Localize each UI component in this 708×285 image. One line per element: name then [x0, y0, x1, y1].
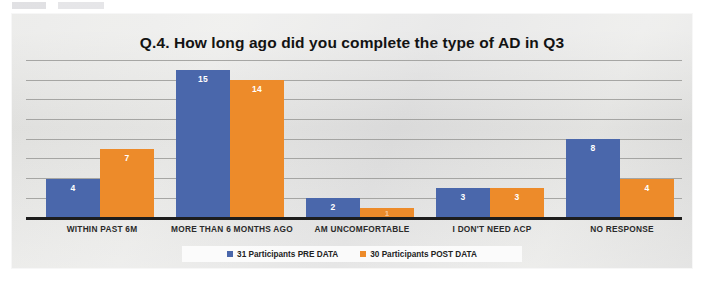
x-axis-tick-label: AM UNCOMFORTABLE: [304, 224, 420, 234]
legend-swatch-icon: [227, 251, 233, 257]
bar-post[interactable]: 14: [230, 80, 284, 218]
bar-post[interactable]: 7: [100, 149, 154, 218]
bar-value: 4: [620, 183, 674, 193]
legend-item-pre[interactable]: 31 Participants PRE DATA: [227, 250, 338, 259]
bar-post[interactable]: 3: [490, 188, 544, 218]
bar-value: 15: [176, 74, 230, 84]
bar-value: 8: [566, 143, 620, 153]
bars-layer: 4 7 15 14 2 1 3: [26, 60, 682, 218]
bar-value: 3: [490, 192, 544, 202]
bar-group: 3 3: [434, 60, 550, 218]
bar-pre[interactable]: 8: [566, 139, 620, 218]
bar-value: 3: [436, 192, 490, 202]
bar-post[interactable]: 4: [620, 179, 674, 219]
bar-group: 4 7: [44, 60, 160, 218]
bar-pre[interactable]: 15: [176, 70, 230, 218]
bar-pre[interactable]: 2: [306, 198, 360, 218]
bar-value: 2: [306, 202, 360, 212]
bar-pre[interactable]: 4: [46, 179, 100, 219]
bar-group: 15 14: [174, 60, 290, 218]
legend-item-post[interactable]: 30 Participants POST DATA: [360, 250, 477, 259]
legend-label: 30 Participants POST DATA: [370, 250, 477, 259]
x-axis-tick-label: WITHIN PAST 6M: [44, 224, 160, 234]
x-axis-labels: WITHIN PAST 6M MORE THAN 6 MONTHS AGO AM…: [26, 224, 682, 240]
bar-value: 7: [100, 153, 154, 163]
chart-card: Q.4. How long ago did you complete the t…: [12, 14, 692, 268]
x-axis-tick-label: I DON'T NEED ACP: [434, 224, 550, 234]
chart-legend: 31 Participants PRE DATA 30 Participants…: [182, 246, 522, 262]
scan-edge-artifact: [12, 2, 162, 9]
x-axis-tick-label: MORE THAN 6 MONTHS AGO: [166, 224, 298, 234]
bar-value: 4: [46, 183, 100, 193]
x-axis-line: [26, 217, 682, 220]
legend-label: 31 Participants PRE DATA: [237, 250, 338, 259]
chart-title: Q.4. How long ago did you complete the t…: [12, 34, 692, 52]
bar-group: 2 1: [304, 60, 420, 218]
x-axis-tick-label: NO RESPONSE: [564, 224, 680, 234]
bar-value: 14: [230, 84, 284, 94]
legend-swatch-icon: [360, 251, 366, 257]
bar-group: 8 4: [564, 60, 680, 218]
bar-pre[interactable]: 3: [436, 188, 490, 218]
